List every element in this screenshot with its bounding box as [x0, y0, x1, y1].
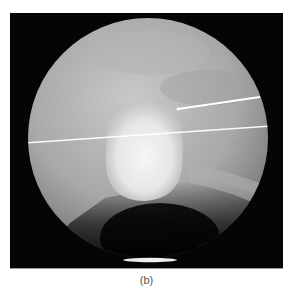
- fluoroscopy-image: [10, 13, 283, 268]
- figure-caption: (b): [0, 274, 293, 286]
- xray-image-frame: [10, 13, 283, 269]
